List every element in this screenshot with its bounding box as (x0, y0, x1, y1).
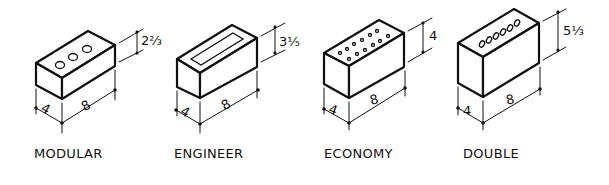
width-label: 4 (39, 100, 53, 117)
width-label: 4 (327, 101, 340, 118)
brick-engineer: 4 8 3⅕ (174, 23, 300, 133)
length-label: 8 (368, 91, 380, 108)
brick-name-double: DOUBLE (463, 146, 519, 161)
brick-name-economy: ECONOMY (324, 146, 393, 161)
brick-name-modular: MODULAR (34, 146, 103, 161)
brick-modular: 4 8 2⅔ (34, 29, 162, 133)
brick-economy: 4 8 4 (322, 18, 437, 130)
length-label: 8 (504, 91, 515, 107)
height-label: 2⅔ (141, 33, 162, 48)
width-label: 4 (463, 103, 471, 118)
brick-name-engineer: ENGINEER (174, 146, 243, 161)
length-label: 8 (219, 96, 234, 113)
height-label: 4 (429, 28, 437, 43)
brick-double: 4 8 5⅓ (456, 9, 584, 130)
height-label: 3⅕ (279, 34, 300, 49)
width-label: 4 (178, 103, 192, 120)
height-label: 5⅓ (563, 23, 584, 38)
